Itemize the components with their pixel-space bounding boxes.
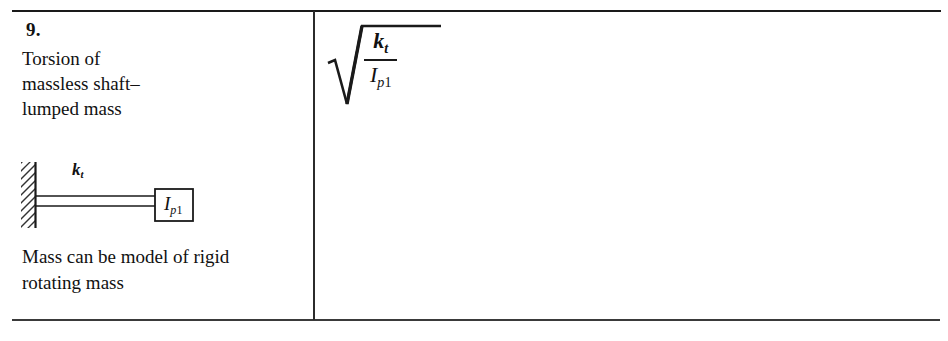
torsional-shaft-diagram: kt Ip1 bbox=[14, 158, 214, 238]
torsional-shaft-svg bbox=[14, 158, 214, 238]
inertia-subscript-1: 1 bbox=[176, 203, 182, 217]
item-number: 9. bbox=[26, 19, 41, 40]
natural-frequency-formula: kt Ip1 bbox=[325, 19, 443, 111]
system-note-line-2: rotating mass bbox=[22, 270, 312, 296]
left-cell-system-description: 9. Torsion of massless shaft– lumped mas… bbox=[0, 10, 313, 320]
numerator-symbol: k bbox=[373, 28, 384, 53]
stiffness-label: kt bbox=[72, 160, 84, 180]
system-description-line-1: Torsion of bbox=[22, 46, 302, 71]
inertia-label: Ip1 bbox=[164, 193, 182, 218]
fraction-numerator: kt bbox=[364, 28, 397, 58]
system-note: Mass can be model of rigid rotating mass bbox=[22, 244, 312, 296]
stiffness-symbol: k bbox=[72, 160, 81, 179]
radicand-fraction: kt Ip1 bbox=[364, 28, 397, 91]
fraction-denominator: Ip1 bbox=[364, 62, 397, 92]
system-note-line-1: Mass can be model of rigid bbox=[22, 244, 312, 270]
denominator-subscript-1: 1 bbox=[384, 73, 391, 89]
fixed-support-hatching bbox=[14, 158, 44, 238]
fraction-bar bbox=[364, 59, 397, 61]
system-description-line-2: massless shaft– bbox=[22, 71, 302, 96]
numerator-subscript: t bbox=[384, 40, 388, 56]
system-description-line-3: lumped mass bbox=[22, 96, 302, 121]
right-cell-natural-frequency: kt Ip1 bbox=[315, 11, 940, 319]
system-description: Torsion of massless shaft– lumped mass bbox=[22, 46, 302, 121]
stiffness-subscript: t bbox=[81, 168, 84, 180]
